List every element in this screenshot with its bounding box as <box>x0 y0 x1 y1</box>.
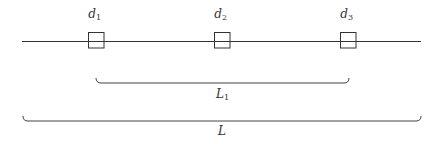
detector-label: d2 <box>214 7 227 22</box>
detector-box <box>341 33 357 49</box>
detector-label: d1 <box>88 7 101 22</box>
brace-label: L <box>217 124 226 138</box>
detector-box <box>215 33 231 49</box>
brace-l: L <box>23 116 421 138</box>
brace-l1: L1 <box>96 78 349 102</box>
detector-label: d3 <box>340 7 353 22</box>
detector-box <box>89 33 105 49</box>
brace-line <box>23 116 421 121</box>
brace-label: L1 <box>215 87 229 102</box>
brace-line <box>96 78 349 83</box>
braces: L1L <box>23 78 421 138</box>
diagram-canvas: d1d2d3 L1L <box>0 0 445 144</box>
